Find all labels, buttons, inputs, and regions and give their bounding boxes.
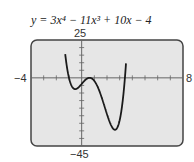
plot-frame <box>31 40 183 146</box>
plot-area <box>0 0 194 162</box>
